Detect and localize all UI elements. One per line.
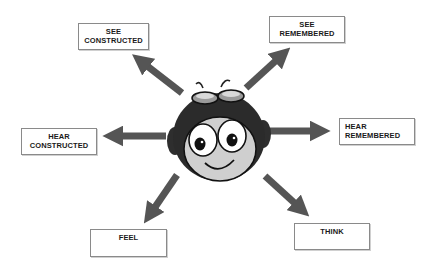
character-face-icon [167, 80, 271, 181]
label-see-remembered: SEE REMEMBERED [269, 16, 345, 43]
label-line1: SEE [299, 20, 314, 29]
label-line2: REMEMBERED [279, 29, 334, 38]
label-line2: CONSTRUCTED [84, 36, 143, 45]
label-see-constructed: SEE CONSTRUCTED [78, 23, 149, 50]
label-line2: CONSTRUCTED [30, 141, 89, 150]
arrow-down-left-icon [151, 175, 177, 213]
arrow-up-right-icon [246, 56, 281, 88]
label-hear-constructed: HEAR CONSTRUCTED [21, 128, 97, 155]
label-line1: THINK [320, 227, 343, 236]
label-feel: FEEL [90, 229, 167, 257]
label-think: THINK [294, 223, 370, 250]
arrow-down-right-icon [265, 176, 300, 208]
label-line1: HEAR [48, 132, 70, 141]
label-line1: SEE [106, 27, 121, 36]
arrow-up-left-icon [142, 62, 182, 93]
label-line1: HEAR [345, 122, 367, 131]
label-line1: FEEL [119, 233, 139, 242]
label-line2: REMEMBERED [345, 131, 400, 140]
label-hear-remembered: HEAR REMEMBERED [339, 118, 415, 145]
eye-accessing-cues-diagram: SEE CONSTRUCTED SEE REMEMBERED HEAR CONS… [0, 0, 436, 269]
